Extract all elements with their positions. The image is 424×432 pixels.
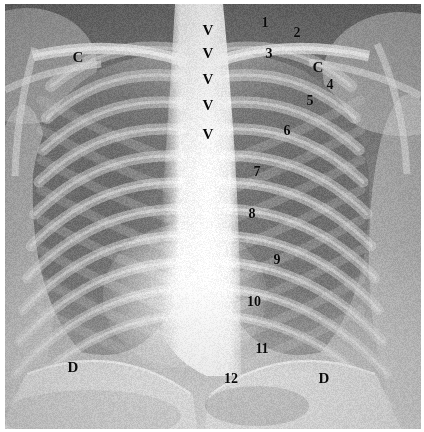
rib-label-rib-1: 1 — [262, 16, 269, 30]
vertebra-label-vertebral-body-5: V — [203, 127, 214, 142]
rib-label-rib-9: 9 — [274, 253, 281, 267]
vertebra-label-vertebral-body-3: V — [203, 72, 214, 87]
vertebra-label-vertebral-body-2: V — [203, 46, 214, 61]
diaphragm-label-diaphragm-left-side-of-image: D — [68, 360, 79, 375]
vertebra-label-vertebral-body-4: V — [203, 98, 214, 113]
rib-label-rib-3: 3 — [266, 47, 273, 61]
rib-label-rib-7: 7 — [254, 165, 261, 179]
diaphragm-label-diaphragm-right-side-of-image: D — [319, 371, 330, 386]
rib-label-rib-11: 11 — [255, 342, 268, 356]
clavicle-label-clavicle-left-side-of-image: C — [73, 50, 84, 65]
clavicle-label-clavicle-right-side-of-image: C — [313, 60, 324, 75]
rib-label-rib-4: 4 — [327, 78, 334, 92]
rib-label-rib-2: 2 — [294, 26, 301, 40]
rib-label-rib-8: 8 — [249, 207, 256, 221]
vertebra-label-vertebral-body-1: V — [203, 23, 214, 38]
rib-label-rib-5: 5 — [307, 94, 314, 108]
rib-label-rib-10: 10 — [247, 295, 261, 309]
rib-label-rib-12: 12 — [224, 372, 238, 386]
annotated-chest-radiograph: CCDDVVVVV123456789101112 — [0, 0, 424, 432]
rib-label-rib-6: 6 — [284, 124, 291, 138]
